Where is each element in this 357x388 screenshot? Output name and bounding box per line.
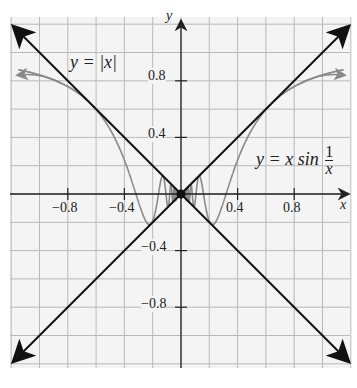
y-tick-label: 0.8 — [148, 68, 166, 84]
sin-curve-label: y = x sin 1 x — [256, 144, 333, 177]
abs-curve-label: y = |x| — [70, 52, 117, 73]
x-tick-label: 0.8 — [283, 200, 301, 216]
y-tick-label: 0.4 — [148, 126, 166, 142]
chart-canvas — [0, 0, 357, 388]
y-tick-label: −0.4 — [141, 239, 166, 255]
x-tick-label: −0.4 — [109, 200, 134, 216]
x-axis-label: x — [340, 197, 346, 213]
fraction-numerator: 1 — [325, 144, 333, 161]
y-axis-label: y — [166, 8, 172, 24]
x-tick-label: 0.4 — [226, 200, 244, 216]
fraction: 1 x — [325, 144, 333, 177]
x-tick-label: −0.8 — [52, 200, 77, 216]
fraction-denominator: x — [325, 161, 333, 177]
sin-curve-prefix: y = x sin — [256, 149, 319, 169]
y-tick-label: −0.8 — [141, 296, 166, 312]
